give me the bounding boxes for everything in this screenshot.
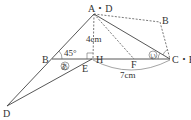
label-angle-a: あ: [61, 63, 68, 71]
label-angle-45: 45°: [64, 48, 77, 58]
label-b-right: B: [162, 15, 169, 26]
label-f: F: [131, 59, 137, 70]
label-ad: A・D: [88, 3, 112, 14]
label-e: E: [82, 63, 88, 74]
right-angle-mark: [87, 53, 93, 59]
label-height-4cm: 4cm: [86, 34, 102, 44]
segment-ad-bright: [94, 14, 160, 22]
label-d: D: [3, 108, 10, 119]
angle-arc-right: [163, 50, 167, 55]
label-angle-i: い: [150, 53, 156, 59]
label-base-7cm: 7cm: [120, 70, 136, 80]
label-ce: C・E: [172, 54, 191, 65]
angle-arc-i: [158, 53, 160, 59]
segment-d-e: [7, 59, 92, 106]
label-b-left: B: [42, 54, 49, 65]
label-h: H: [96, 54, 103, 65]
segment-ad-d: [7, 14, 94, 106]
angle-arc-45: [59, 51, 62, 59]
geometry-diagram: A・D B B H E F C・E D 4cm 7cm 45° あ い: [0, 0, 191, 120]
segment-ad-ce: [94, 14, 170, 59]
